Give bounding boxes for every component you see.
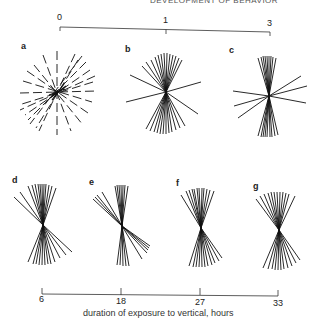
bottom-axis-tick-27: 27 bbox=[195, 297, 205, 307]
panel-b-label: b bbox=[125, 44, 131, 54]
bottom-axis-tick-33: 33 bbox=[273, 298, 283, 308]
panel-c-label: c bbox=[229, 45, 234, 55]
top-axis bbox=[60, 27, 270, 36]
bottom-axis-tick-6: 6 bbox=[39, 294, 44, 304]
diagram-canvas bbox=[0, 0, 321, 331]
panel-a-lines bbox=[20, 51, 97, 135]
panel-g-lines bbox=[256, 192, 300, 270]
panel-g-label: g bbox=[253, 181, 259, 191]
top-axis-tick-1: 1 bbox=[163, 15, 168, 25]
bottom-axis-caption: duration of exposure to vertical, hours bbox=[83, 308, 234, 318]
panel-c-lines bbox=[233, 56, 307, 137]
panel-b-lines bbox=[126, 53, 201, 134]
bottom-axis bbox=[42, 288, 278, 296]
panel-d-lines bbox=[14, 184, 72, 265]
panel-d-label: d bbox=[12, 175, 18, 185]
panel-f-label: f bbox=[176, 178, 179, 188]
top-axis-tick-2: 3 bbox=[267, 18, 272, 28]
panel-a-label: a bbox=[21, 41, 26, 51]
panel-e-lines bbox=[93, 185, 150, 266]
top-axis-tick-0: 0 bbox=[57, 12, 62, 22]
panel-e-label: e bbox=[89, 177, 94, 187]
bottom-axis-tick-18: 18 bbox=[116, 296, 126, 306]
panel-f-lines bbox=[181, 188, 222, 267]
